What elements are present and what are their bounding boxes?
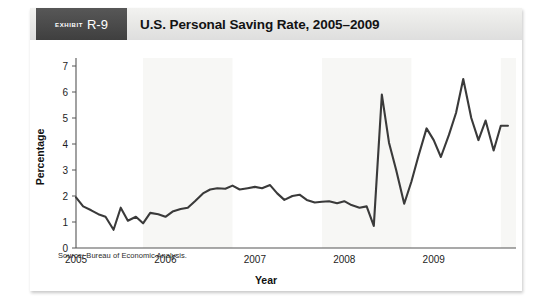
exhibit-card: exhibit R-9 U.S. Personal Saving Rate, 2… <box>30 8 522 291</box>
data-line-personal-saving-rate <box>76 79 508 230</box>
y-tick-label: 4 <box>62 139 68 150</box>
exhibit-badge-label: exhibit <box>55 20 83 29</box>
x-tick-label: 2008 <box>333 254 356 265</box>
x-axis-title: Year <box>255 274 277 286</box>
exhibit-badge-number: R-9 <box>87 17 108 32</box>
exhibit-badge: exhibit R-9 <box>36 8 127 40</box>
shaded-band <box>143 58 232 248</box>
y-tick-label: 6 <box>62 87 68 98</box>
y-tick-label: 7 <box>62 61 68 72</box>
source-note: Source: Bureau of Economic Analysis. <box>58 251 187 260</box>
shaded-bands <box>143 58 516 248</box>
x-tick-label: 2007 <box>244 254 267 265</box>
x-tick-label: 2009 <box>423 254 446 265</box>
exhibit-figure: exhibit R-9 U.S. Personal Saving Rate, 2… <box>0 0 541 306</box>
shaded-band <box>322 58 411 248</box>
y-tick-label: 5 <box>62 113 68 124</box>
exhibit-title: U.S. Personal Saving Rate, 2005–2009 <box>140 8 380 40</box>
y-tick-label: 2 <box>62 191 68 202</box>
y-tick-label: 1 <box>62 217 68 228</box>
exhibit-header: exhibit R-9 U.S. Personal Saving Rate, 2… <box>30 8 522 40</box>
y-axis: 01234567 <box>62 58 76 254</box>
y-axis-title: Percentage <box>34 129 46 186</box>
y-tick-label: 3 <box>62 165 68 176</box>
shaded-band <box>501 58 516 248</box>
